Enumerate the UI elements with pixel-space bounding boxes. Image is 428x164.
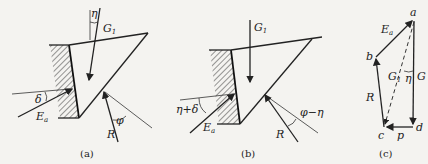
point-b-label: b	[366, 50, 373, 63]
caption-a: (a)	[80, 148, 94, 159]
force-diagram: η G1 δ Ea φ R (a) G1 η+δ Ea	[0, 0, 428, 164]
eta-label-a: η	[91, 7, 98, 20]
ea-label-a: Ea	[35, 110, 48, 124]
ea-label-b: Ea	[202, 121, 215, 135]
p-label-c: p	[397, 129, 404, 142]
caption-c: (c)	[379, 148, 393, 159]
ea-label-c: Ea	[380, 23, 393, 37]
eta-label-c: η	[405, 72, 412, 85]
r-label-c: R	[365, 91, 374, 104]
caption-b: (b)	[241, 148, 255, 159]
eta-delta-label-b: η+δ	[176, 103, 199, 116]
eta-arc-a	[90, 22, 98, 23]
g1-label-b: G1	[254, 21, 267, 35]
phi-eta-arc-b	[288, 119, 296, 126]
phi-label-a: φ	[116, 114, 124, 127]
r-label-b: R	[275, 128, 284, 141]
panel-c: a b c d Ea G G1 η R p (c)	[365, 6, 426, 159]
delta-arc-a	[45, 92, 47, 101]
delta-label-a: δ	[35, 93, 42, 106]
r-vector-c	[376, 59, 384, 127]
r-label-a: R	[106, 128, 115, 141]
point-d-label: d	[416, 121, 423, 134]
panel-a: η G1 δ Ea φ R (a)	[12, 7, 152, 159]
g1-label-a: G1	[103, 22, 116, 36]
phi-eta-label-b: φ−η	[300, 106, 324, 119]
panel-b: G1 η+δ Ea φ−η R (b)	[176, 20, 324, 159]
g-vector-c	[413, 21, 414, 124]
point-a-label: a	[410, 6, 417, 19]
eta-delta-arc-b	[199, 98, 206, 113]
g-label-c: G	[417, 70, 426, 83]
point-c-label: c	[378, 129, 384, 142]
